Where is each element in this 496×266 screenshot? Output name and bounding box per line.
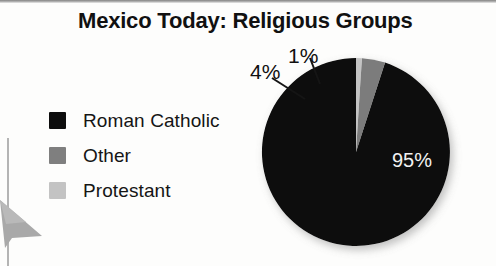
slice-value-protestant: 1% xyxy=(288,44,318,68)
slice-value-roman-catholic: 95% xyxy=(392,149,432,172)
legend-item-other[interactable]: Other xyxy=(49,138,259,173)
legend-item-roman-catholic[interactable]: Roman Catholic xyxy=(49,103,259,138)
legend-label-roman-catholic: Roman Catholic xyxy=(83,110,220,132)
pie-chart xyxy=(248,44,472,262)
legend-swatch-roman-catholic xyxy=(49,112,66,129)
chart-page: Mexico Today: Religious Groups Roman Cat… xyxy=(0,0,496,266)
legend-swatch-other xyxy=(49,147,66,164)
slice-value-other: 4% xyxy=(250,60,280,84)
scan-arrow-artifact xyxy=(0,196,44,250)
legend-label-other: Other xyxy=(83,145,131,167)
chart-legend: Roman Catholic Other Protestant xyxy=(49,103,259,208)
scan-edge-artifact xyxy=(0,0,496,3)
legend-item-protestant[interactable]: Protestant xyxy=(49,173,259,208)
legend-swatch-protestant xyxy=(49,182,66,199)
legend-label-protestant: Protestant xyxy=(83,180,171,202)
page-title: Mexico Today: Religious Groups xyxy=(78,8,478,34)
